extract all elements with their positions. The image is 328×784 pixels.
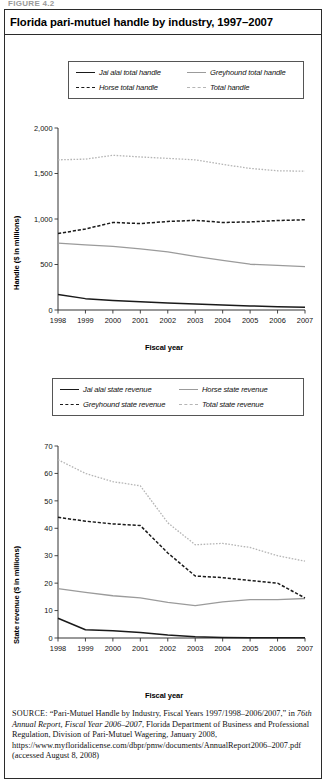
svg-text:2005: 2005 [242,644,258,653]
svg-text:10: 10 [44,606,52,615]
svg-text:2006: 2006 [269,316,285,325]
chart-state-revenue-plot: 0102030405060701998199920002001200220032… [22,438,314,668]
legend-label: Jai alai total handle [99,68,161,77]
series-line [58,460,305,561]
chart-handle-y-axis-label: Handle ($ in millions) [12,216,21,290]
chart-handle-legend: Jai alai total handle Greyhound total ha… [68,61,304,99]
legend-item-horse-total-handle: Horse total handle [76,83,187,92]
svg-text:2000: 2000 [105,644,121,653]
series-line [58,220,305,234]
legend-item-jai-alai-total-handle: Jai alai total handle [76,68,187,77]
svg-text:2001: 2001 [132,644,148,653]
legend-label: Jai alai state revenue [83,385,151,394]
series-line [58,295,305,308]
svg-text:2004: 2004 [214,316,230,325]
chart-state-revenue-legend: Jai alai state revenue Horse state reven… [52,378,304,416]
svg-text:2007: 2007 [297,644,313,653]
chart-state-revenue-x-axis-label: Fiscal year [0,691,328,700]
svg-text:0: 0 [48,634,52,643]
chart-handle-x-axis-label: Fiscal year [0,343,328,352]
figure-number: FIGURE 4.2 [8,0,128,8]
title-divider [5,34,321,35]
legend-item-jai-alai-state-revenue: Jai alai state revenue [60,385,179,394]
svg-text:2001: 2001 [132,316,148,325]
svg-text:60: 60 [44,469,52,478]
legend-item-total-handle: Total handle [187,83,298,92]
legend-label: Horse state revenue [202,385,268,394]
svg-text:2002: 2002 [160,644,176,653]
figure-title: Florida pari-mutuel handle by industry, … [10,16,273,28]
svg-text:70: 70 [44,442,52,451]
series-line [58,589,305,606]
svg-text:2002: 2002 [160,316,176,325]
legend-item-horse-state-revenue: Horse state revenue [179,385,298,394]
legend-item-total-state-revenue: Total state revenue [179,400,298,409]
svg-text:40: 40 [44,524,52,533]
svg-text:2005: 2005 [242,316,258,325]
series-line [58,517,305,598]
svg-text:0: 0 [48,306,52,315]
svg-text:1998: 1998 [50,316,66,325]
legend-label: Total state revenue [202,400,263,409]
svg-text:1999: 1999 [77,644,93,653]
svg-text:500: 500 [40,260,52,269]
legend-label: Horse total handle [99,83,158,92]
legend-item-greyhound-state-revenue: Greyhound state revenue [60,400,179,409]
legend-label: Greyhound state revenue [83,400,165,409]
chart-state-revenue-y-axis-label: State revenue ($ in millions) [12,546,21,644]
source-label: SOURCE: [12,709,48,718]
legend-label: Greyhound total handle [210,68,286,77]
svg-text:2,000: 2,000 [34,124,53,133]
legend-label: Total handle [210,83,249,92]
chart-handle-plot: 05001,0001,5002,000199819992000200120022… [22,120,314,340]
series-line [58,243,305,267]
svg-text:2006: 2006 [269,644,285,653]
svg-text:50: 50 [44,497,52,506]
source-text-1: “Pari-Mutuel Handle by Industry, Fiscal … [48,709,297,718]
svg-text:2004: 2004 [214,644,230,653]
legend-item-greyhound-total-handle: Greyhound total handle [187,68,298,77]
series-line [58,618,305,637]
svg-text:1998: 1998 [50,644,66,653]
svg-text:30: 30 [44,551,52,560]
svg-text:2000: 2000 [105,316,121,325]
svg-text:20: 20 [44,579,52,588]
svg-text:1,000: 1,000 [34,215,53,224]
svg-text:1999: 1999 [77,316,93,325]
svg-text:2003: 2003 [187,644,203,653]
series-line [58,155,305,171]
svg-text:1,500: 1,500 [34,169,53,178]
svg-text:2003: 2003 [187,316,203,325]
svg-text:2007: 2007 [297,316,313,325]
source-note: SOURCE: “Pari-Mutuel Handle by Industry,… [12,709,312,762]
